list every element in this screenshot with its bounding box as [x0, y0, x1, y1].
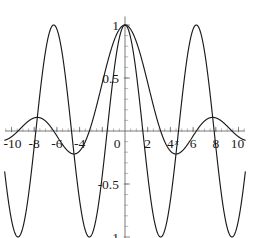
- y-tick-label-1: 1: [112, 18, 119, 33]
- x-tick-label-4: 4: [167, 136, 174, 151]
- tick-label-group: -10-8-6-4024681010.5-0.5-1x: [4, 18, 245, 238]
- x-tick-label-10: 10: [231, 136, 245, 151]
- x-axis-name: x: [174, 137, 179, 147]
- y-tick-label-05: 0.5: [102, 71, 119, 86]
- x-tick-label-neg8: -8: [29, 136, 40, 151]
- y-tick-label-neg1: -1: [108, 230, 119, 238]
- y-tick-label-neg05: -0.5: [98, 177, 120, 192]
- x-tick-label-8: 8: [212, 136, 219, 151]
- chart-canvas: -10-8-6-4024681010.5-0.5-1x: [0, 0, 266, 238]
- x-tick-label-neg6: -6: [51, 136, 62, 151]
- axes: [5, 17, 244, 238]
- x-tick-label-6: 6: [190, 136, 197, 151]
- x-tick-label-neg4: -4: [74, 136, 85, 151]
- x-tick-label-neg10: -10: [4, 136, 22, 151]
- x-tick-label-zero: 0: [114, 136, 121, 151]
- x-tick-label-2: 2: [144, 136, 151, 151]
- chart-plot: -10-8-6-4024681010.5-0.5-1x: [0, 0, 266, 238]
